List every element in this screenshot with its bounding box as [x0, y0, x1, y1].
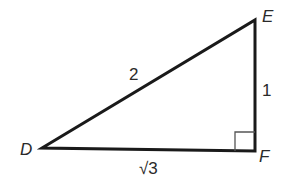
vertex-label-f: F: [259, 147, 271, 166]
vertex-label-d: D: [20, 140, 32, 159]
side-label-ef: 1: [262, 81, 271, 100]
triangle-def: [42, 20, 255, 151]
side-label-de: 2: [129, 65, 138, 84]
right-angle-marker: [235, 132, 255, 151]
vertex-label-e: E: [262, 7, 274, 26]
triangle-svg: E D F 2 1 √3: [0, 0, 292, 188]
triangle-diagram: E D F 2 1 √3: [0, 0, 292, 188]
side-label-df: √3: [139, 159, 158, 178]
